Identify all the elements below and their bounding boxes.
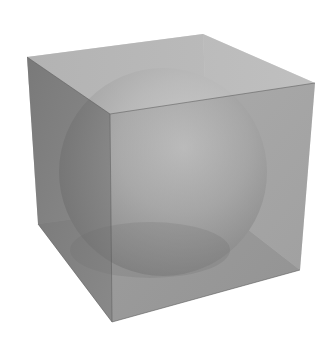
cube-sphere-illustration [0,0,335,338]
